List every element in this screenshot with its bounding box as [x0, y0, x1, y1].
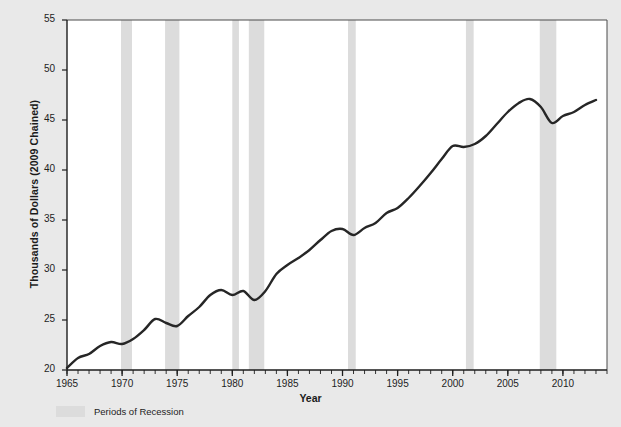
x-tick-label: 1970: [100, 378, 144, 389]
y-tick-label: 25: [25, 313, 55, 324]
x-tick-label: 1990: [321, 378, 365, 389]
y-tick-label: 35: [25, 213, 55, 224]
x-tick-label: 2010: [541, 378, 585, 389]
x-tick-label: 2000: [431, 378, 475, 389]
y-tick-label: 50: [25, 63, 55, 74]
y-tick-label: 20: [25, 363, 55, 374]
recession-legend-label: Periods of Recession: [94, 406, 184, 417]
x-tick-label: 1975: [155, 378, 199, 389]
x-axis-major-ticks: [67, 370, 563, 376]
y-axis-ticks: [62, 20, 67, 370]
chart-plot-svg: [0, 0, 621, 427]
chart-legend: Periods of Recession: [56, 406, 184, 417]
x-axis-label: Year: [0, 392, 621, 404]
plot-background: [67, 20, 607, 370]
recession-legend-swatch: [56, 406, 85, 417]
y-axis-label: Thousands of Dollars (2009 Chained): [28, 64, 40, 324]
x-tick-label: 1965: [45, 378, 89, 389]
chart-figure: Thousands of Dollars (2009 Chained) Year…: [0, 0, 621, 427]
y-tick-label: 30: [25, 263, 55, 274]
y-tick-label: 45: [25, 113, 55, 124]
x-tick-label: 2005: [486, 378, 530, 389]
x-tick-label: 1995: [376, 378, 420, 389]
y-tick-label: 40: [25, 163, 55, 174]
x-tick-label: 1985: [265, 378, 309, 389]
x-tick-label: 1980: [210, 378, 254, 389]
y-tick-label: 55: [25, 13, 55, 24]
